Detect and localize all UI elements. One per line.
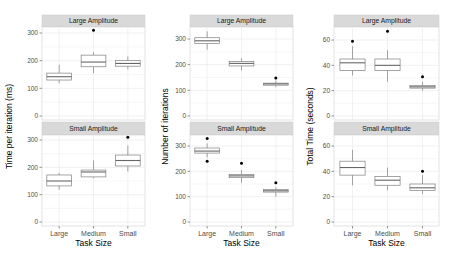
outlier-point [386, 30, 389, 33]
y-tick-label: 100 [175, 193, 186, 200]
facet-strip-label: Small Amplitude [217, 125, 266, 133]
y-tick-label: 0 [326, 112, 330, 119]
y-axis-title: Total Time (seconds) [305, 87, 315, 166]
box-iqr [410, 184, 435, 190]
y-tick-label: 40 [323, 168, 331, 175]
outlier-point [206, 160, 209, 163]
y-tick-label: 200 [27, 57, 38, 64]
y-tick-label: 0 [34, 218, 38, 225]
outlier-point [240, 162, 243, 165]
outlier-point [274, 77, 277, 80]
y-tick-label: 300 [27, 29, 38, 36]
y-tick-label: 0 [326, 218, 330, 225]
y-tick-label: 20 [323, 87, 331, 94]
y-tick-label: 300 [175, 142, 186, 149]
x-tick-label: Medium [229, 230, 254, 237]
box-iqr [81, 170, 106, 177]
facet-strip-label: Large Amplitude [362, 17, 411, 25]
y-tick-label: 100 [27, 191, 38, 198]
outlier-point [206, 137, 209, 140]
y-tick-label: 0 [182, 112, 186, 119]
facet-panel: Large Amplitude0100200300 [175, 15, 293, 120]
y-axis-title: Time per iteration (ms) [4, 84, 14, 169]
y-tick-label: 60 [323, 36, 331, 43]
y-tick-label: 200 [175, 168, 186, 175]
y-tick-label: 200 [27, 164, 38, 171]
facet-strip-label: Small Amplitude [362, 125, 411, 133]
y-tick-label: 0 [34, 112, 38, 119]
x-tick-label: Large [50, 230, 68, 238]
facet-panel: Large Amplitude0100200300 [27, 15, 145, 120]
boxplot-figure: Large Amplitude0100200300Small Amplitude… [0, 0, 457, 262]
outlier-point [351, 40, 354, 43]
x-tick-label: Large [198, 230, 216, 238]
x-tick-label: Medium [375, 230, 400, 237]
facet-panel: Large Amplitude0204060 [323, 15, 439, 120]
x-axis-title: Task Size [368, 238, 405, 248]
facet-strip-label: Small Amplitude [69, 125, 118, 133]
plot-panel [334, 27, 439, 120]
outlier-point [274, 181, 277, 184]
y-tick-label: 300 [27, 136, 38, 143]
x-tick-label: Small [119, 230, 137, 237]
y-tick-label: 300 [175, 35, 186, 42]
y-tick-label: 200 [175, 61, 186, 68]
facet-panel: Small Amplitude0100200300LargeMediumSmal… [175, 122, 293, 248]
outlier-point [92, 29, 95, 32]
box-iqr [375, 59, 400, 70]
y-tick-label: 0 [182, 218, 186, 225]
facet-strip-label: Large Amplitude [69, 17, 118, 25]
outlier-point [421, 75, 424, 78]
x-tick-label: Large [344, 230, 362, 238]
y-tick-label: 20 [323, 193, 331, 200]
box-iqr [81, 55, 106, 67]
y-tick-label: 60 [323, 142, 331, 149]
chart-canvas: Large Amplitude0100200300Small Amplitude… [0, 0, 457, 262]
box-iqr [375, 176, 400, 185]
y-tick-label: 40 [323, 62, 331, 69]
x-tick-label: Small [414, 230, 432, 237]
x-axis-title: Task Size [75, 238, 112, 248]
outlier-point [421, 170, 424, 173]
box-iqr [340, 161, 365, 175]
y-tick-label: 100 [27, 85, 38, 92]
y-axis-title: Number of iterations [160, 88, 170, 165]
x-axis-title: Task Size [223, 238, 260, 248]
facet-panel: Small Amplitude0204060LargeMediumSmallTa… [323, 122, 439, 248]
outlier-point [126, 136, 129, 139]
x-tick-label: Medium [81, 230, 106, 237]
facet-panel: Small Amplitude0100200300LargeMediumSmal… [27, 122, 145, 248]
y-tick-label: 100 [175, 87, 186, 94]
box-iqr [340, 59, 365, 70]
facet-strip-label: Large Amplitude [217, 17, 266, 25]
x-tick-label: Small [267, 230, 285, 237]
